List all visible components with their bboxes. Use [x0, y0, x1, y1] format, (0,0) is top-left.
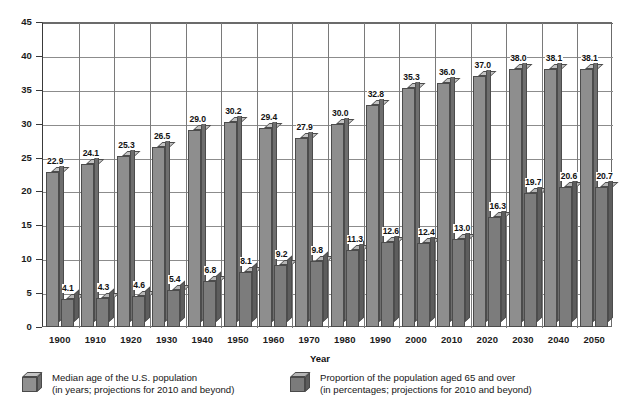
x-axis-title: Year — [270, 353, 370, 364]
y-tick-label: 20 — [6, 185, 32, 196]
value-label-median-1900: 22.9 — [47, 157, 64, 166]
bar-aged65-1940 — [203, 281, 216, 327]
bar-median-age-1950 — [224, 122, 237, 327]
bar-aged65-1960 — [274, 265, 287, 327]
value-label-aged65-1940: 6.8 — [204, 266, 217, 275]
y-tick-label: 5 — [6, 287, 32, 298]
bar-median-age-2050 — [580, 69, 593, 327]
bar-median-age-1990 — [366, 105, 379, 327]
value-label-aged65-2050: 20.7 — [596, 172, 613, 181]
bar-aged65-2020 — [488, 217, 501, 327]
value-label-aged65-1980: 11.3 — [347, 235, 364, 244]
bar-median-age-1980 — [331, 124, 344, 327]
value-label-aged65-1950: 8.1 — [240, 257, 253, 266]
value-label-aged65-1990: 12.6 — [382, 227, 399, 236]
value-label-median-2050: 38.1 — [581, 54, 598, 63]
value-label-median-1970: 27.9 — [296, 123, 313, 132]
bar-median-age-2020 — [473, 76, 486, 327]
bar-median-age-1970 — [295, 138, 308, 327]
bar-aged65-1950 — [239, 272, 252, 327]
bar-aged65-2000 — [417, 243, 430, 327]
bar-median-age-2040 — [544, 69, 557, 327]
value-label-aged65-1960: 9.2 — [275, 250, 288, 259]
y-tick-label: 25 — [6, 152, 32, 163]
y-tick-label: 15 — [6, 219, 32, 230]
value-label-median-2030: 38.0 — [510, 54, 527, 63]
bar-median-age-1900 — [46, 172, 59, 327]
value-label-median-1960: 29.4 — [260, 113, 277, 122]
bar-median-age-1910 — [81, 164, 94, 327]
bar-aged65-1920 — [132, 296, 145, 327]
bar-median-age-2030 — [509, 69, 522, 327]
bar-aged65-1970 — [310, 261, 323, 327]
value-label-median-2000: 35.3 — [403, 73, 420, 82]
bar-aged65-1990 — [381, 242, 394, 327]
value-label-aged65-2030: 19.7 — [525, 178, 542, 187]
bar-aged65-1930 — [167, 290, 180, 327]
value-label-aged65-1930: 5.4 — [168, 275, 181, 284]
value-label-aged65-1970: 9.8 — [311, 246, 324, 255]
bar-aged65-2040 — [559, 187, 572, 327]
y-tick-label: 0 — [6, 321, 32, 332]
x-tick-label-2050: 2050 — [572, 334, 616, 345]
y-tick-label: 10 — [6, 253, 32, 264]
dark-cube-icon — [290, 372, 310, 392]
value-label-median-2040: 38.1 — [545, 54, 562, 63]
bar-median-age-2000 — [402, 88, 415, 327]
value-label-aged65-1900: 4.1 — [62, 284, 75, 293]
y-tick-label: 40 — [6, 50, 32, 61]
bar-median-age-1920 — [117, 156, 130, 327]
bar-median-age-1930 — [152, 147, 165, 327]
value-label-aged65-2010: 13.0 — [453, 224, 470, 233]
value-label-aged65-2000: 12.4 — [418, 228, 435, 237]
y-tick-label: 45 — [6, 16, 32, 27]
value-label-median-1990: 32.8 — [367, 90, 384, 99]
bar-aged65-1900 — [61, 299, 74, 327]
light-cube-icon — [22, 372, 42, 392]
value-label-median-1920: 25.3 — [118, 141, 135, 150]
bar-median-age-1940 — [188, 130, 201, 327]
bar-aged65-2050 — [595, 187, 608, 327]
value-label-aged65-2040: 20.6 — [560, 172, 577, 181]
bar-chart: 454035302520151050 22.94.124.14.325.34.6… — [0, 0, 627, 415]
value-label-aged65-1910: 4.3 — [97, 283, 110, 292]
legend-label-line1: Proportion of the population aged 65 and… — [320, 372, 515, 383]
legend-label-line2: (in percentages; projections for 2010 an… — [320, 384, 532, 396]
value-label-median-2020: 37.0 — [474, 61, 491, 70]
legend-label-line1: Median age of the U.S. population — [52, 372, 197, 383]
value-label-median-1980: 30.0 — [332, 109, 349, 118]
y-tick-label: 30 — [6, 118, 32, 129]
bar-median-age-2010 — [437, 83, 450, 327]
value-label-median-2010: 36.0 — [438, 68, 455, 77]
value-label-median-1940: 29.0 — [189, 115, 206, 124]
value-label-aged65-2020: 16.3 — [489, 202, 506, 211]
bar-aged65-1910 — [96, 298, 109, 327]
bar-aged65-1980 — [346, 250, 359, 327]
value-label-aged65-1920: 4.6 — [133, 281, 146, 290]
value-label-median-1910: 24.1 — [82, 149, 99, 158]
bars-layer: 22.94.124.14.325.34.626.55.429.06.830.28… — [42, 22, 612, 327]
legend-label-line2: (in years; projections for 2010 and beyo… — [52, 384, 234, 396]
bar-aged65-2010 — [452, 239, 465, 327]
bar-aged65-2030 — [524, 193, 537, 327]
y-tick-label: 35 — [6, 84, 32, 95]
y-tick-mark — [36, 327, 42, 328]
value-label-median-1950: 30.2 — [225, 107, 242, 116]
bar-median-age-1960 — [259, 128, 272, 327]
value-label-median-1930: 26.5 — [153, 132, 170, 141]
